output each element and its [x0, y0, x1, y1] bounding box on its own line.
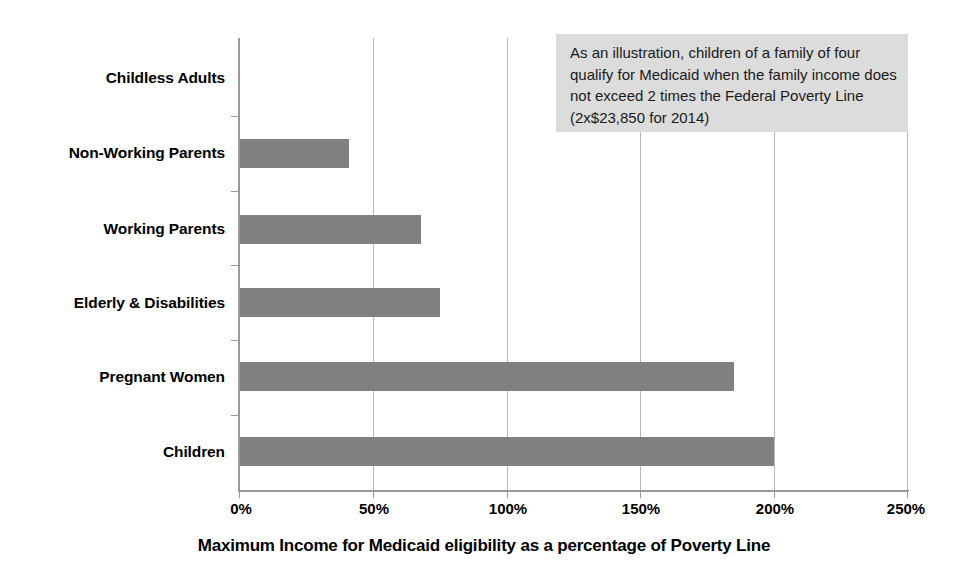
category-label-non-working-parents: Non-Working Parents: [69, 144, 225, 162]
x-tick-label-150: 150%: [622, 500, 660, 517]
x-tick-label-50: 50%: [359, 500, 389, 517]
x-tick-150: [640, 491, 641, 498]
category-label-pregnant-women: Pregnant Women: [99, 368, 225, 386]
x-tick-label-0: 0%: [230, 500, 252, 517]
annotation-text: As an illustration, children of a family…: [570, 42, 898, 128]
x-axis-line: [238, 490, 909, 492]
x-tick-label-250: 250%: [887, 500, 925, 517]
x-axis-title: Maximum Income for Medicaid eligibility …: [0, 536, 968, 556]
category-label-working-parents: Working Parents: [104, 220, 225, 238]
x-tick-200: [774, 491, 775, 498]
bar-elderly-disabilities: [239, 288, 440, 317]
y-tick-2: [231, 191, 239, 192]
y-tick-1: [231, 116, 239, 117]
x-tick-250: [907, 491, 908, 498]
x-tick-label-200: 200%: [756, 500, 794, 517]
x-tick-100: [507, 491, 508, 498]
category-label-childless-adults: Childless Adults: [106, 69, 225, 87]
bar-children: [239, 437, 774, 466]
x-tick-label-100: 100%: [489, 500, 527, 517]
category-label-children: Children: [163, 443, 225, 461]
x-tick-0: [239, 491, 240, 498]
category-label-elderly-disabilities: Elderly & Disabilities: [74, 294, 225, 312]
bar-working-parents: [239, 215, 421, 244]
gridline-100: [507, 38, 508, 490]
y-tick-5: [231, 415, 239, 416]
y-tick-3: [231, 265, 239, 266]
bar-non-working-parents: [239, 139, 349, 168]
gridline-50: [373, 38, 374, 490]
y-tick-4: [231, 340, 239, 341]
bar-pregnant-women: [239, 362, 734, 391]
bar-chart: Childless Adults Non-Working Parents Wor…: [0, 0, 968, 575]
x-tick-50: [373, 491, 374, 498]
annotation-box: As an illustration, children of a family…: [556, 34, 908, 132]
